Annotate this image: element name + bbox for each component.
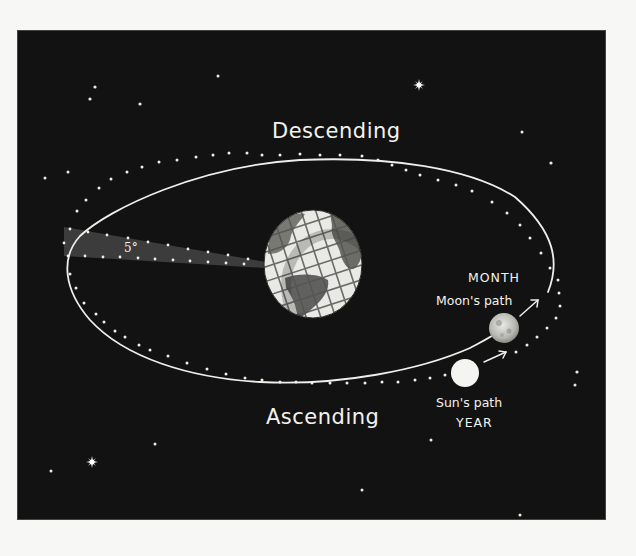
angle-label: 5°	[124, 241, 138, 255]
year-label: YEAR	[455, 415, 493, 430]
moon	[489, 313, 519, 343]
moons-path-label: Moon's path	[436, 293, 512, 308]
bright-star-bottom	[86, 456, 98, 468]
sun	[451, 359, 479, 387]
sun-direction-arrow	[484, 351, 506, 362]
inclination-wedge	[64, 227, 266, 268]
descending-label: Descending	[272, 119, 401, 143]
bright-star-top	[413, 79, 425, 91]
orbit-diagram: 5°	[0, 0, 636, 556]
moon-direction-arrow	[520, 300, 538, 316]
suns-path-label: Sun's path	[436, 395, 502, 410]
ascending-label: Ascending	[266, 405, 379, 429]
month-label: MONTH	[468, 270, 520, 285]
